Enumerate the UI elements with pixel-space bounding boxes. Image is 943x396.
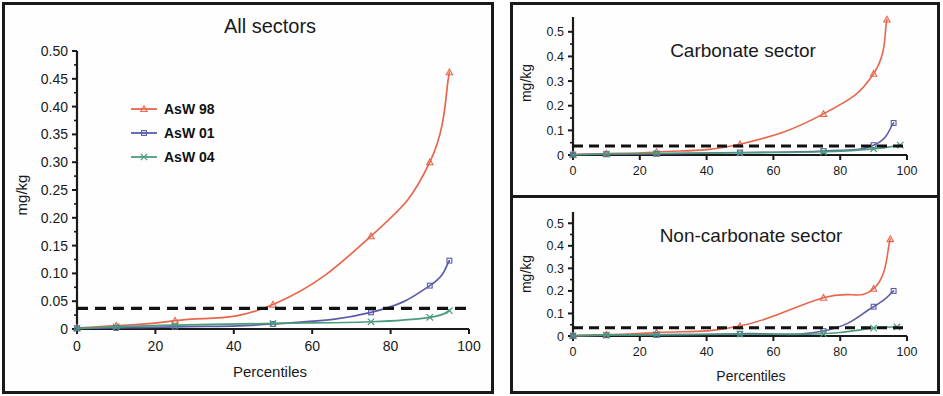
chart-all-sectors: All sectors00.050.100.150.200.250.300.35… [5,5,491,391]
x-tick-label: 60 [304,338,320,354]
y-tick-label: 0.50 [41,43,68,59]
x-tick-label: 80 [833,164,847,178]
y-tick-label: 0.10 [41,265,68,281]
panel-non-carbonate: Non-carbonate sector00.10.20.30.40.50204… [513,198,937,391]
y-tick-label: 0.5 [547,217,564,231]
x-tick-label: 100 [897,345,918,359]
y-tick-label: 0.5 [547,25,564,39]
y-tick-label: 0.3 [547,75,564,89]
series-line-asw-01 [77,261,449,329]
y-tick-label: 0.20 [41,210,68,226]
x-tick-label: 40 [700,345,714,359]
panel-title: Carbonate sector [670,40,816,61]
y-tick-label: 0.45 [41,71,68,87]
y-tick-label: 0.4 [547,239,564,253]
y-tick-label: 0.15 [41,238,68,254]
legend-label: AsW 01 [164,125,215,141]
legend-label: AsW 98 [164,101,215,117]
x-tick-label: 80 [383,338,399,354]
y-tick-label: 0 [557,330,564,344]
y-axis-title: mg/kg [13,175,30,216]
y-tick-label: 0.3 [547,262,564,276]
series-line-asw-04 [77,311,449,329]
panel-title: Non-carbonate sector [660,225,843,246]
x-tick-label: 0 [73,338,81,354]
x-axis-title: Percentiles [233,363,307,380]
series-line-asw-98 [573,239,890,335]
panel-all-sectors: All sectors00.050.100.150.200.250.300.35… [2,2,494,394]
y-tick-label: 0.1 [547,124,564,138]
y-tick-label: 0.35 [41,126,68,142]
panel-right-column: Carbonate sector00.10.20.30.40.502040608… [510,2,940,394]
chart-carbonate: Carbonate sector00.10.20.30.40.502040608… [513,5,937,195]
y-axis-title: mg/kg [518,64,534,102]
x-tick-label: 100 [897,164,918,178]
y-tick-label: 0.05 [41,293,68,309]
x-tick-label: 40 [226,338,242,354]
y-tick-label: 0.2 [547,284,564,298]
series-line-asw-98 [77,72,449,328]
panel-carbonate: Carbonate sector00.10.20.30.40.502040608… [513,5,937,198]
panel-title: All sectors [224,15,316,37]
legend-label: AsW 04 [164,149,215,165]
y-tick-label: 0.25 [41,182,68,198]
chart-non-carbonate: Non-carbonate sector00.10.20.30.40.50204… [513,198,937,388]
y-tick-label: 0 [557,149,564,163]
y-tick-label: 0.1 [547,307,564,321]
y-tick-label: 0.4 [547,50,564,64]
y-tick-label: 0 [60,321,68,337]
y-tick-label: 0.2 [547,99,564,113]
x-tick-label: 0 [570,345,577,359]
x-tick-label: 20 [633,345,647,359]
x-tick-label: 60 [766,164,780,178]
x-tick-label: 40 [700,164,714,178]
x-tick-label: 80 [833,345,847,359]
figure-container: All sectors00.050.100.150.200.250.300.35… [0,0,943,396]
legend: AsW 98AsW 01AsW 04 [131,101,215,165]
series-line-asw-01 [573,123,894,155]
x-tick-label: 0 [570,164,577,178]
y-tick-label: 0.30 [41,154,68,170]
x-tick-label: 100 [457,338,481,354]
x-tick-label: 60 [766,345,780,359]
x-axis-title: Percentiles [716,368,785,384]
y-tick-label: 0.40 [41,99,68,115]
x-tick-label: 20 [148,338,164,354]
y-axis-title: mg/kg [518,255,534,293]
x-tick-label: 20 [633,164,647,178]
